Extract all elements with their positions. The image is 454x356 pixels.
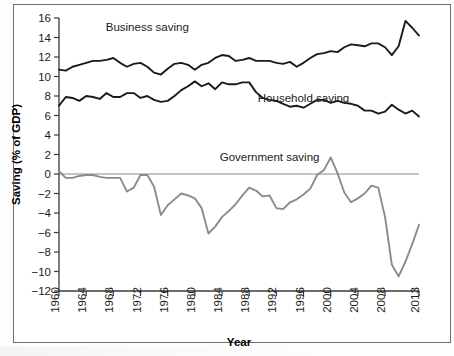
- x-tick-label: 1972: [131, 287, 143, 313]
- series-line-government-saving: [59, 157, 419, 276]
- y-tick-label: −8: [38, 246, 51, 258]
- y-tick-label: 14: [38, 32, 51, 44]
- y-tick-label: 16: [38, 12, 51, 24]
- y-tick-label: 8: [45, 90, 51, 102]
- x-tick-label: 1968: [103, 287, 115, 313]
- y-tick-label: 4: [45, 129, 52, 141]
- annotation-government-saving: Government saving: [220, 151, 320, 163]
- x-tick-label: 1988: [239, 287, 251, 313]
- annotation-household-saving: Household saving: [258, 92, 349, 104]
- y-tick-label: 0: [45, 168, 51, 180]
- x-axis-title: Year: [227, 336, 252, 348]
- y-tick-label: 6: [45, 110, 51, 122]
- x-tick-label: 1964: [76, 287, 88, 313]
- x-tick-label: 1960: [49, 287, 61, 313]
- y-tick-label: 12: [38, 51, 51, 63]
- y-tick-label: −6: [38, 227, 51, 239]
- y-axis-title: Saving (% of GDP): [10, 104, 22, 205]
- series-line-household-saving: [59, 81, 419, 116]
- x-tick-label: 2013: [409, 287, 421, 313]
- x-tick-label: 1996: [294, 287, 306, 313]
- x-tick-label: 2004: [348, 287, 360, 313]
- line-chart: −12−10−8−6−4−202468101214161960196419681…: [0, 0, 454, 356]
- figure-container: −12−10−8−6−4−202468101214161960196419681…: [0, 0, 454, 356]
- x-tick-label: 1992: [266, 287, 278, 313]
- x-tick-label: 2000: [321, 287, 333, 313]
- x-tick-label: 1984: [212, 287, 224, 313]
- y-tick-label: 10: [38, 71, 51, 83]
- y-tick-label: 2: [45, 149, 51, 161]
- x-tick-label: 2008: [375, 287, 387, 313]
- annotation-business-saving: Business saving: [106, 21, 189, 33]
- x-tick-label: 1976: [158, 287, 170, 313]
- y-tick-label: −4: [38, 207, 52, 219]
- y-tick-label: −10: [31, 266, 51, 278]
- x-tick-label: 1980: [185, 287, 197, 313]
- y-tick-label: −2: [38, 188, 51, 200]
